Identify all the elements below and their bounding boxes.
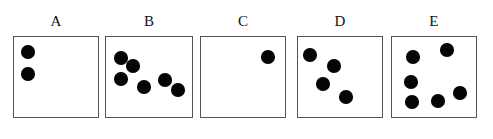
- dot: [431, 94, 445, 108]
- dot-pattern-figure: ABCDE: [0, 0, 493, 139]
- dot: [404, 75, 418, 89]
- dot: [453, 86, 467, 100]
- panel-e: E: [0, 0, 493, 139]
- panel-label-e: E: [391, 14, 477, 29]
- dot: [406, 50, 420, 64]
- dot: [440, 43, 454, 57]
- dot: [405, 95, 419, 109]
